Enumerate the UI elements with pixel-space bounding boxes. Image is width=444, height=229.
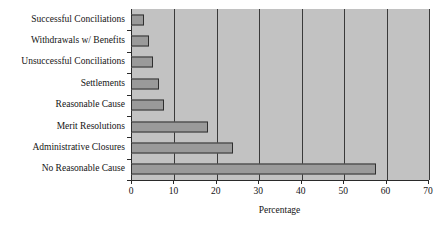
y-axis-tick (127, 137, 131, 138)
bar (131, 57, 153, 68)
y-axis-tick (127, 30, 131, 31)
x-axis-title: Percentage (259, 206, 301, 216)
gridline (217, 9, 218, 180)
x-axis-tick (216, 180, 217, 184)
x-axis-tick-label: 60 (381, 187, 391, 197)
x-axis-tick (428, 180, 429, 184)
x-axis-tick-label: 10 (169, 187, 179, 197)
gridline (429, 9, 430, 180)
bar (131, 14, 144, 25)
bar (131, 164, 376, 175)
y-axis-tick (127, 95, 131, 96)
bar (131, 100, 164, 111)
bar (131, 78, 159, 89)
y-axis-tick-label: Unsuccessful Conciliations (0, 58, 125, 68)
bar (131, 121, 208, 132)
x-axis-tick (301, 180, 302, 184)
plot-area (131, 9, 429, 181)
x-axis-tick-label: 20 (211, 187, 221, 197)
y-axis-tick (127, 116, 131, 117)
x-axis-tick (386, 180, 387, 184)
x-axis-tick-label: 50 (338, 187, 348, 197)
y-axis-tick-label: Reasonable Cause (0, 100, 125, 110)
gridline (344, 9, 345, 180)
bar (131, 142, 233, 153)
x-axis-tick-label: 70 (423, 187, 433, 197)
bar-chart: Successful ConciliationsWithdrawals w/ B… (0, 0, 444, 229)
x-axis-tick (343, 180, 344, 184)
gridline (387, 9, 388, 180)
y-axis-tick (127, 52, 131, 53)
x-axis-tick (131, 180, 132, 184)
y-axis-tick-label: No Reasonable Cause (0, 165, 125, 175)
y-axis-tick (127, 73, 131, 74)
x-axis-tick (258, 180, 259, 184)
x-axis-tick-label: 40 (296, 187, 306, 197)
gridline (302, 9, 303, 180)
y-axis-tick (127, 159, 131, 160)
x-axis-tick-label: 0 (129, 187, 134, 197)
y-axis-tick-label: Withdrawals w/ Benefits (0, 36, 125, 46)
y-axis-tick-label: Settlements (0, 79, 125, 89)
y-axis-tick-label: Administrative Closures (0, 143, 125, 153)
gridline (174, 9, 175, 180)
x-axis-tick (173, 180, 174, 184)
y-axis-tick-label: Successful Conciliations (0, 15, 125, 25)
gridline (259, 9, 260, 180)
y-axis-tick-label: Merit Resolutions (0, 122, 125, 132)
bar (131, 36, 149, 47)
x-axis-tick-label: 30 (254, 187, 264, 197)
